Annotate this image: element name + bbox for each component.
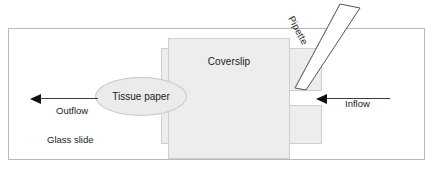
coverslip-label: Coverslip: [168, 56, 290, 67]
tissue-paper-ellipse: Tissue paper: [95, 77, 187, 116]
arrow-head: [30, 94, 41, 104]
diagram-canvas: Coverslip Tissue paper Outflow Inflow Gl…: [0, 0, 432, 171]
arrow-head: [316, 94, 327, 104]
tissue-paper-label: Tissue paper: [112, 91, 169, 102]
inflow-label: Inflow: [345, 98, 370, 109]
outflow-arrow-icon: [30, 93, 98, 105]
outflow-label: Outflow: [56, 105, 88, 116]
glass-slide-label: Glass slide: [47, 134, 93, 145]
arrow-shaft: [40, 98, 98, 99]
